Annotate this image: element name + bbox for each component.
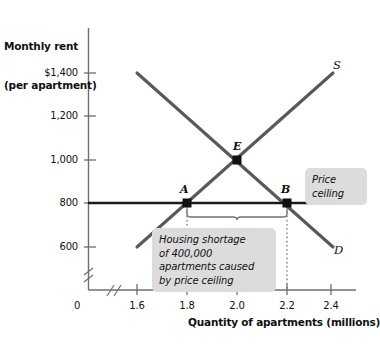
y-axis-title-line1: Monthly rent bbox=[4, 40, 97, 53]
y-axis-title: Monthly rent (per apartment) bbox=[4, 14, 97, 118]
y-tick-label-1000: 1,000 bbox=[22, 154, 78, 165]
shortage-callout-line4: by price ceiling bbox=[159, 274, 269, 288]
shortage-callout-line3: apartments caused bbox=[159, 260, 269, 274]
origin-label: 0 bbox=[74, 300, 80, 311]
y-axis-title-line2: (per apartment) bbox=[4, 79, 97, 92]
point-label-a: A bbox=[180, 183, 189, 196]
x-tick-label-2-4: 2.4 bbox=[311, 300, 351, 311]
point-marker-a bbox=[183, 199, 192, 208]
y-tick-label-800: 800 bbox=[22, 197, 78, 208]
shortage-callout-line2: of 400,000 bbox=[159, 247, 269, 261]
x-tick-label-1-6: 1.6 bbox=[117, 300, 157, 311]
y-tick-label-1200: 1,200 bbox=[22, 110, 78, 121]
x-tick-label-1-8: 1.8 bbox=[167, 300, 207, 311]
x-tick-label-2-2: 2.2 bbox=[267, 300, 307, 311]
shortage-callout-line1: Housing shortage bbox=[159, 233, 269, 247]
y-tick-label-600: 600 bbox=[22, 241, 78, 252]
supply-curve-label: S bbox=[333, 58, 341, 72]
point-marker-e bbox=[233, 156, 242, 165]
price-ceiling-callout-line1: Price bbox=[312, 173, 360, 187]
price-ceiling-callout-line2: ceiling bbox=[312, 187, 360, 201]
x-axis-title: Quantity of apartments (millions) bbox=[188, 316, 380, 328]
point-label-b: B bbox=[281, 183, 290, 196]
point-label-e: E bbox=[233, 140, 241, 153]
demand-curve-label: D bbox=[334, 243, 343, 257]
price-ceiling-callout: Price ceiling bbox=[305, 168, 367, 205]
y-tick-label-1400: $1,400 bbox=[22, 67, 78, 78]
shortage-bracket bbox=[187, 209, 287, 220]
point-marker-b bbox=[283, 199, 292, 208]
housing-shortage-callout: Housing shortage of 400,000 apartments c… bbox=[152, 228, 276, 292]
x-tick-label-2-0: 2.0 bbox=[217, 300, 257, 311]
